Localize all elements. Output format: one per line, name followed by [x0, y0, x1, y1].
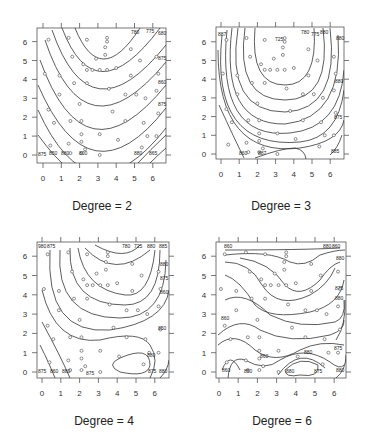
y-tick-label: 2 [202, 329, 207, 338]
contour-label: 875 [314, 368, 323, 374]
y-tick-label: 5 [202, 272, 207, 281]
x-tick-label: 2 [255, 389, 260, 398]
data-point [223, 253, 226, 256]
data-point [290, 326, 293, 329]
data-point [260, 278, 263, 281]
data-point [337, 305, 340, 308]
y-tick-label: 4 [202, 291, 207, 300]
x-tick-label: 6 [332, 389, 337, 398]
x-tick-label: 1 [236, 389, 241, 398]
data-point [235, 309, 238, 312]
contour-label: 860 [332, 243, 341, 249]
data-point [262, 365, 265, 368]
data-point [296, 355, 299, 358]
data-point [248, 270, 251, 273]
contour-label: 860 [224, 243, 233, 249]
contour-label: 880 [336, 367, 345, 373]
y-tick-label: 1 [202, 349, 207, 358]
contour-panel-degree-6: 0123456012345686088086088087588086087588… [0, 0, 371, 444]
contour-line [225, 297, 344, 325]
data-point [327, 351, 330, 354]
data-point [244, 251, 247, 254]
data-point [219, 288, 222, 291]
data-point [338, 328, 341, 331]
contour-label: 850 [244, 368, 253, 374]
data-point [337, 351, 340, 354]
data-point [283, 268, 286, 271]
data-point [246, 336, 249, 339]
data-point [264, 253, 267, 256]
contour-label: 880 [323, 243, 332, 249]
data-point [304, 309, 307, 312]
data-point [319, 274, 322, 277]
contour-label: 880 [335, 295, 344, 301]
x-tick-label: 3 [274, 389, 279, 398]
contour-line [218, 339, 344, 358]
data-point [325, 313, 328, 316]
data-point [285, 284, 288, 287]
contour-label: 875 [335, 285, 344, 291]
data-point [256, 318, 259, 321]
data-point [321, 363, 324, 366]
data-point [244, 359, 247, 362]
contour-label: 875 [334, 345, 343, 351]
data-point [304, 336, 307, 339]
data-point [315, 309, 318, 312]
data-point [258, 349, 261, 352]
data-point [294, 282, 297, 285]
data-point [337, 270, 340, 273]
data-point [310, 262, 313, 265]
y-tick-label: 6 [202, 252, 207, 261]
contour-line [218, 320, 344, 339]
data-point [310, 289, 313, 292]
x-tick-label: 4 [294, 389, 299, 398]
data-point [225, 361, 228, 364]
data-point [277, 349, 280, 352]
data-point [235, 289, 238, 292]
data-point [258, 336, 261, 339]
x-tick-label: 0 [217, 389, 222, 398]
data-point [273, 272, 276, 275]
contour-label: 860 [260, 353, 269, 359]
contour-label: 860 [222, 367, 231, 373]
data-point [229, 338, 232, 341]
data-point [264, 284, 267, 287]
data-point [277, 284, 280, 287]
data-point [269, 284, 272, 287]
contour-line [225, 275, 344, 315]
data-point [285, 255, 288, 258]
y-tick-label: 3 [202, 310, 207, 319]
contour-label: 880 [304, 349, 313, 355]
contour-label: 880 [336, 255, 345, 261]
contour-label: 880 [286, 368, 295, 374]
contour-plot: 0123456012345686088086088087588086087588… [0, 0, 371, 444]
data-point [223, 324, 226, 327]
y-tick-label: 0 [202, 368, 207, 377]
data-point [285, 251, 288, 254]
caption-degree-6: Degree = 6 [252, 414, 312, 428]
data-point [287, 303, 290, 306]
data-point [277, 371, 280, 374]
data-point [323, 338, 326, 341]
contour-label: 860 [221, 315, 230, 321]
x-tick-label: 5 [313, 389, 318, 398]
data-point [250, 297, 253, 300]
data-point [258, 369, 261, 372]
data-point [283, 260, 286, 263]
data-point [264, 297, 267, 300]
